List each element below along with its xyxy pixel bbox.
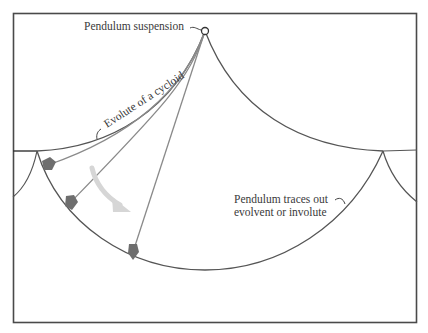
suspension-leader bbox=[190, 27, 201, 30]
pendulum-bob-1 bbox=[42, 157, 56, 170]
evolute-leader bbox=[97, 129, 101, 139]
pendulum-rod-2 bbox=[70, 31, 205, 203]
evolute-label: Evolute of a cycloid bbox=[102, 69, 187, 131]
evolute-left-arc bbox=[37, 31, 205, 151]
evolute-right-arc bbox=[205, 31, 383, 151]
motion-arrow-icon bbox=[92, 168, 120, 205]
traces-label-line1: Pendulum traces out bbox=[234, 193, 329, 205]
motion-arrowhead-icon bbox=[112, 197, 131, 212]
diagram-frame bbox=[14, 14, 417, 323]
traces-label-line2: evolvent or involute bbox=[234, 206, 327, 218]
pendulum-rod-3 bbox=[133, 31, 205, 252]
involute-curve bbox=[37, 151, 383, 270]
suspension-point-icon bbox=[202, 28, 209, 35]
right-baseline bbox=[383, 150, 417, 151]
right-side-arc bbox=[383, 151, 417, 202]
suspension-label: Pendulum suspension bbox=[84, 20, 184, 33]
left-side-arc bbox=[13, 151, 37, 197]
traces-leader bbox=[335, 198, 345, 204]
cycloid-pendulum-diagram: Pendulum suspension Evolute of a cycloid… bbox=[0, 0, 428, 333]
